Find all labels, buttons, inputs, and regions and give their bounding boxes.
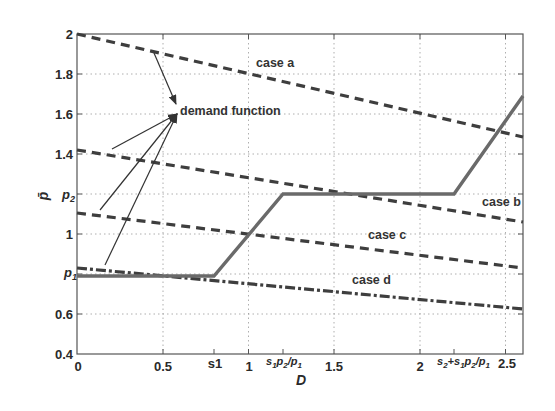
svg-text:1.8: 1.8 — [55, 67, 73, 82]
case-c-line — [77, 213, 523, 268]
case-b-label: case b — [482, 195, 521, 209]
x-tick-s2-plus-s1p2-over-p1: s2+s1p2/p1 — [437, 355, 491, 370]
svg-text:1.4: 1.4 — [55, 147, 74, 162]
svg-text:p̄: p̄ — [35, 191, 51, 201]
x-tick-s1p2-over-p1: s1p2/p1 — [266, 355, 303, 370]
case-b-line — [77, 150, 523, 222]
y-tick-p1: p1 — [63, 265, 77, 282]
y-axis-label: p̄ — [35, 191, 51, 201]
demand-function-label: demand function — [180, 104, 281, 118]
chart: case a case b case c case d demand funct… — [0, 0, 555, 411]
svg-text:0.5: 0.5 — [154, 359, 172, 374]
svg-text:0.6: 0.6 — [55, 307, 73, 322]
case-c-label: case c — [368, 228, 406, 242]
case-d-label: case d — [352, 273, 391, 287]
svg-text:0.4: 0.4 — [55, 347, 74, 362]
svg-text:s1: s1 — [208, 356, 222, 371]
svg-text:0: 0 — [74, 359, 81, 374]
svg-text:2.5: 2.5 — [498, 356, 516, 371]
arrow-from-case-a — [154, 53, 176, 104]
arrow-from-case-b — [112, 114, 177, 149]
case-lines — [77, 34, 523, 309]
svg-text:2: 2 — [66, 27, 73, 42]
svg-text:1.6: 1.6 — [55, 107, 73, 122]
case-a-line — [77, 34, 523, 137]
svg-text:2: 2 — [416, 359, 423, 374]
case-a-label: case a — [256, 56, 295, 70]
svg-text:1: 1 — [245, 359, 252, 374]
y-tick-p2: p2 — [61, 187, 75, 204]
svg-text:1: 1 — [66, 227, 73, 242]
svg-text:1.5: 1.5 — [325, 359, 343, 374]
x-axis-label: D — [296, 372, 306, 388]
